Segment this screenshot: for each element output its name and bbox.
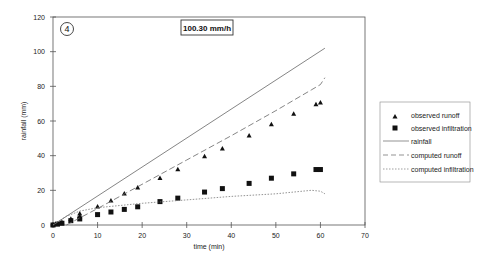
square-marker [59,221,64,226]
square-marker [269,176,274,181]
square-marker [291,171,296,176]
x-tick-label: 40 [227,232,235,239]
legend-label: computed infiltration [411,166,474,174]
panel-number: 4 [64,24,69,34]
triangle-marker [220,146,225,151]
square-marker [220,186,225,191]
legend-label: computed runoff [411,152,462,160]
y-tick-label: 40 [37,152,45,159]
x-tick-label: 30 [183,232,191,239]
series-layer [51,48,325,227]
rate-value: 100.30 mm/h [183,24,231,33]
triangle-marker [247,133,252,138]
y-tick-label: 20 [37,187,45,194]
triangle-marker [175,167,180,172]
x-axis-title: time (min) [193,243,224,251]
square-marker [108,210,113,215]
legend: observed runoff observed infiltration ra… [380,102,474,182]
series-line [53,48,325,225]
x-tick-label: 10 [94,232,102,239]
x-tick-label: 20 [138,232,146,239]
y-axis-title: rainfall (mm) [20,102,28,141]
square-marker-icon [393,126,398,131]
square-marker [202,190,207,195]
series-rainfall [53,48,325,225]
x-axis: 010203040506070 [51,222,369,239]
triangle-marker [318,100,323,105]
triangle-marker [291,111,296,116]
series-computed-runoff [66,78,325,225]
panel-label: 4 [61,23,74,36]
square-marker [135,204,140,209]
y-tick-label: 120 [33,14,45,21]
series-line [53,190,325,225]
legend-label: observed infiltration [411,125,472,132]
triangle-marker [157,175,162,180]
square-marker [175,196,180,201]
chart-canvas: 020406080100120 010203040506070 rainfall… [0,0,503,270]
triangle-marker [313,102,318,107]
x-tick-label: 50 [272,232,280,239]
triangle-marker [269,122,274,127]
y-tick-label: 60 [37,118,45,125]
square-marker [313,167,318,172]
y-tick-label: 100 [33,48,45,55]
series-computed-infiltration [53,190,325,225]
square-marker [122,207,127,212]
legend-label: rainfall [411,138,432,145]
square-marker [95,212,100,217]
legend-label: observed runoff [411,112,460,119]
y-tick-label: 80 [37,83,45,90]
y-axis: 020406080100120 [33,14,56,229]
square-marker [247,181,252,186]
series-line [66,78,325,225]
y-tick-label: 0 [41,222,45,229]
x-tick-label: 70 [361,232,369,239]
square-marker [318,167,323,172]
x-tick-label: 60 [317,232,325,239]
rate-annotation: 100.30 mm/h [181,20,233,35]
triangle-marker [202,154,207,159]
x-tick-label: 0 [51,232,55,239]
series-observed-infiltration [51,167,323,227]
series-observed-runoff [51,100,323,227]
plot-area [53,17,365,225]
